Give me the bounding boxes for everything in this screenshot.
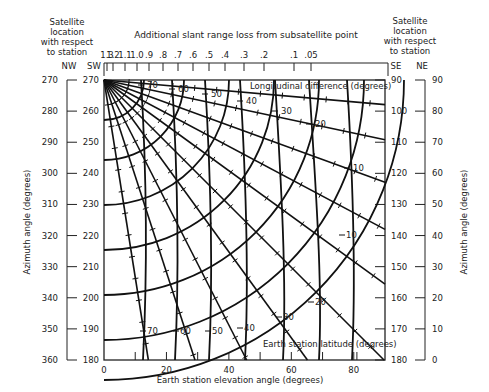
nw-tick-label: 320 — [42, 231, 58, 241]
sw-tick-label: 180 — [83, 355, 99, 365]
svg-text:with respect: with respect — [384, 36, 437, 46]
slant-loss-tick-label: .2 — [260, 50, 268, 60]
svg-text:to station: to station — [47, 47, 88, 57]
sw-tick-label: 230 — [83, 199, 99, 209]
nw-tick-label: 360 — [42, 355, 58, 365]
ne-tick-label: 40 — [432, 231, 443, 241]
ne-tick-label: 90 — [432, 75, 443, 85]
longitudinal-difference-value: 60 — [178, 84, 189, 94]
elevation-tick-label: 60 — [286, 365, 297, 375]
y-axis-label-right: Azimuth angle (degrees) — [459, 170, 469, 275]
nw-tick-label: 290 — [42, 137, 58, 147]
se-tick-label: 90 — [391, 75, 402, 85]
longitudinal-difference-value: 30 — [281, 106, 292, 116]
latitude-label: Earth station latitude (degrees) — [263, 339, 397, 349]
nw-tick-label: 270 — [42, 75, 58, 85]
ne-tick-label: 20 — [432, 293, 443, 303]
se-tick-label: 180 — [391, 355, 407, 365]
slant-loss-tick-label: .7 — [174, 50, 182, 60]
svg-text:with respect: with respect — [41, 37, 94, 47]
elevation-tick-label: 80 — [348, 365, 359, 375]
ne-tick-label: 10 — [432, 324, 443, 334]
svg-text:Satellite: Satellite — [393, 16, 428, 26]
sw-tick-label: 210 — [83, 262, 99, 272]
se-tick-label: 150 — [391, 262, 407, 272]
svg-text:location: location — [50, 27, 84, 37]
latitude-value: 20 — [315, 297, 326, 307]
slant-loss-scale: 1.31.21.11.0.9.8.7.6.5.4.3.2.1.05 — [100, 50, 388, 76]
left-caption: Satellite location with respect to stati… — [41, 17, 94, 57]
elevation-tick-label: 40 — [223, 365, 234, 375]
sw-tick-label: 260 — [83, 106, 99, 116]
elevation-axis: 020406080 — [101, 352, 359, 375]
slant-loss-tick-label: .1 — [290, 50, 298, 60]
ne-tick-label: 60 — [432, 168, 443, 178]
longitudinal-difference-value: 50 — [211, 89, 222, 99]
latitude-value: 60 — [180, 326, 191, 336]
latitude-value: 10 — [346, 230, 357, 240]
nw-tick-label: 350 — [42, 324, 58, 334]
longitudinal-difference-value: 40 — [246, 96, 257, 106]
nomogram-curves: 7060504030201070605040302010 — [104, 79, 404, 380]
sw-header: SW — [87, 61, 101, 71]
se-tick-label: 160 — [391, 293, 407, 303]
nw-header: NW — [62, 61, 77, 71]
elevation-tick-label: 0 — [101, 365, 106, 375]
ne-tick-label: 50 — [432, 199, 443, 209]
longitudinal-difference-curve — [347, 80, 354, 360]
nw-tick-label: 280 — [42, 106, 58, 116]
ne-tick-label: 30 — [432, 262, 443, 272]
se-tick-label: 170 — [391, 324, 407, 334]
slant-loss-tick-label: .4 — [221, 50, 229, 60]
ne-tick-label: 70 — [432, 137, 443, 147]
longitudinal-difference-value: 20 — [315, 119, 326, 129]
latitude-value: 30 — [283, 312, 294, 322]
nw-tick-label: 330 — [42, 262, 58, 272]
ne-header: NE — [416, 61, 428, 71]
latitude-value: 40 — [244, 323, 255, 333]
sw-tick-label: 220 — [83, 231, 99, 241]
x-axis-label: Earth station elevation angle (degrees) — [157, 375, 324, 385]
slant-loss-tick-label: .05 — [304, 50, 318, 60]
sw-tick-label: 240 — [83, 168, 99, 178]
latitude-value: 70 — [147, 326, 158, 336]
se-tick-label: 120 — [391, 168, 407, 178]
svg-text:location: location — [393, 26, 427, 36]
sw-tick-label: 190 — [83, 324, 99, 334]
slant-loss-tick-label: .9 — [145, 50, 153, 60]
chart-title: Additional slant range loss from subsate… — [134, 30, 358, 40]
nw-tick-label: 300 — [42, 168, 58, 178]
se-header: SE — [391, 61, 402, 71]
longitudinal-difference-value: 70 — [147, 80, 158, 90]
svg-text:Satellite: Satellite — [50, 17, 85, 27]
sw-tick-label: 270 — [83, 75, 99, 85]
right-caption: Satellite location with respect to stati… — [384, 16, 437, 56]
slant-loss-tick-label: .5 — [205, 50, 213, 60]
nw-tick-label: 340 — [42, 293, 58, 303]
ne-tick-label: 0 — [432, 355, 437, 365]
nw-tick-label: 310 — [42, 199, 58, 209]
nomogram-chart: Additional slant range loss from subsate… — [0, 0, 489, 392]
svg-text:to station: to station — [390, 46, 431, 56]
slant-loss-tick-label: .8 — [159, 50, 167, 60]
sw-tick-label: 250 — [83, 137, 99, 147]
longitudinal-difference-value: 10 — [353, 163, 364, 173]
elevation-tick-label: 20 — [161, 365, 172, 375]
se-tick-label: 130 — [391, 199, 407, 209]
slant-loss-tick-label: .3 — [240, 50, 248, 60]
se-tick-label: 100 — [391, 106, 407, 116]
latitude-value: 50 — [212, 326, 223, 336]
sw-tick-label: 200 — [83, 293, 99, 303]
longitudinal-difference-label: Longitudinal difference (degrees) — [250, 81, 391, 91]
slant-loss-tick-label: .6 — [189, 50, 197, 60]
se-tick-label: 140 — [391, 231, 407, 241]
y-axis-label-left: Azimuth angle (degrees) — [22, 170, 32, 275]
ne-tick-label: 80 — [432, 106, 443, 116]
slant-loss-tick-label: 1.0 — [130, 50, 144, 60]
